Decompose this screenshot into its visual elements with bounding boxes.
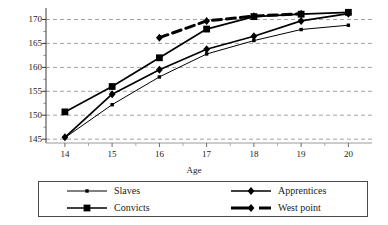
y-tick-label-155: 155: [18, 86, 42, 96]
data-point: [156, 66, 163, 74]
data-point: [156, 54, 163, 61]
gridlines: [46, 20, 372, 140]
legend-marker: [84, 204, 91, 211]
x-tick-label-20: 20: [336, 149, 360, 159]
chart-container: 145150155160165170 14151617181920 Age Sl…: [0, 0, 388, 225]
legend-swatch-diamond: [229, 202, 273, 214]
y-tick-label-160: 160: [18, 62, 42, 72]
legend-swatch-large-square: [65, 202, 109, 214]
chart-legend: SlavesApprenticesConvictsWest point: [38, 181, 368, 217]
data-point: [61, 108, 68, 115]
series-line-0: [65, 25, 349, 138]
data-point: [203, 26, 210, 33]
data-point: [203, 45, 210, 53]
x-tick-label-15: 15: [100, 149, 124, 159]
x-tick-label-17: 17: [195, 149, 219, 159]
series-west-point: [156, 10, 305, 42]
legend-item-west-point[interactable]: West point: [203, 199, 367, 216]
legend-item-slaves[interactable]: Slaves: [39, 182, 203, 199]
legend-label: Apprentices: [278, 186, 326, 196]
legend-marker: [248, 204, 255, 212]
data-point: [347, 24, 350, 27]
data-point: [109, 83, 116, 90]
legend-label: West point: [278, 203, 321, 213]
y-tick-label-165: 165: [18, 38, 42, 48]
x-tick-label-16: 16: [147, 149, 171, 159]
data-point: [299, 28, 302, 31]
legend-swatch-small-square: [65, 185, 109, 197]
legend-label: Slaves: [114, 186, 140, 196]
legend-label: Convicts: [114, 203, 150, 213]
x-tick-label-19: 19: [289, 149, 313, 159]
series-slaves: [63, 24, 350, 140]
data-point: [298, 17, 305, 25]
data-series: [61, 9, 351, 141]
legend-marker: [85, 189, 88, 192]
axis-ticks: [42, 20, 348, 148]
data-point: [156, 34, 163, 42]
y-tick-label-145: 145: [18, 134, 42, 144]
y-tick-label-150: 150: [18, 110, 42, 120]
legend-swatch-diamond: [229, 185, 273, 197]
x-axis-title: Age: [0, 165, 388, 175]
data-point: [203, 17, 210, 25]
x-tick-label-14: 14: [53, 149, 77, 159]
x-tick-label-18: 18: [242, 149, 266, 159]
y-tick-label-170: 170: [18, 14, 42, 24]
data-point: [250, 32, 257, 40]
legend-item-convicts[interactable]: Convicts: [39, 199, 203, 216]
legend-item-apprentices[interactable]: Apprentices: [203, 182, 367, 199]
data-point: [158, 75, 161, 78]
legend-marker: [248, 187, 255, 195]
data-point: [110, 103, 113, 106]
